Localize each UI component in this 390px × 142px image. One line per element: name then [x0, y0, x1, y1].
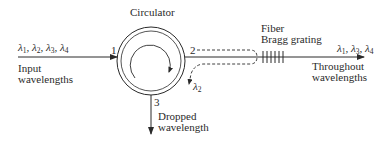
reflection-dashed-path	[189, 50, 257, 84]
throughout-label-line2: wavelengths	[312, 71, 367, 83]
circulation-direction-arrow-icon	[130, 45, 170, 78]
circulator-fbg-diagram: Circulator λ1, λ2, λ3, λ4 Input waveleng…	[0, 0, 390, 142]
port-3-label: 3	[154, 96, 160, 108]
circulator-inner-circle	[121, 31, 181, 91]
input-label-line2: wavelengths	[18, 73, 73, 85]
grating-label-line2: Bragg grating	[261, 33, 322, 45]
port-1-label: 1	[111, 44, 117, 56]
circulator-title: Circulator	[130, 6, 175, 18]
input-wavelengths-list: λ1, λ2, λ3, λ4	[18, 41, 69, 57]
dropped-label-line2: wavelength	[158, 121, 209, 133]
throughout-wavelengths-list: λ1, λ3, λ4	[337, 42, 374, 58]
port-2-label: 2	[190, 44, 196, 56]
reflected-wavelength-label: λ2	[193, 80, 202, 96]
circulator-outer-circle	[117, 27, 185, 95]
